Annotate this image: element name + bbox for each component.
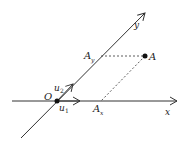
svg-text:y: y bbox=[90, 56, 95, 64]
y-axis bbox=[21, 13, 145, 138]
oblique-coordinate-diagram: O y x A u 2 u 1 A y A x bbox=[0, 0, 189, 146]
svg-text:x: x bbox=[100, 109, 104, 116]
u2-label: u 2 bbox=[54, 83, 64, 94]
x-axis-label: x bbox=[165, 107, 170, 117]
ax-label: A x bbox=[92, 103, 104, 116]
svg-text:A: A bbox=[83, 50, 91, 61]
projection-to-x bbox=[101, 56, 145, 101]
svg-text:1: 1 bbox=[65, 107, 69, 114]
u1-label: u 1 bbox=[59, 103, 69, 114]
svg-text:2: 2 bbox=[60, 87, 64, 94]
y-axis-label: y bbox=[133, 20, 140, 30]
point-a bbox=[143, 54, 148, 59]
svg-text:A: A bbox=[92, 103, 100, 114]
point-a-label: A bbox=[148, 51, 156, 62]
ay-label: A y bbox=[83, 50, 95, 64]
origin-label: O bbox=[44, 91, 52, 102]
